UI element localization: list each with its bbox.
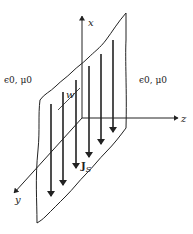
medium-left-label: ϵ0, μ0: [4, 75, 32, 85]
y-axis: [14, 118, 82, 193]
current-density-label: JS: [80, 160, 92, 174]
current-sheet-diagram: x z y w JS ϵ0, μ0 ϵ0, μ0: [0, 0, 193, 234]
y-axis-label: y: [14, 194, 21, 205]
medium-right-label: ϵ0, μ0: [139, 75, 167, 85]
x-axis-label: x: [88, 17, 94, 28]
strip-width-label: w: [66, 89, 75, 100]
z-axis-label: z: [180, 113, 187, 124]
